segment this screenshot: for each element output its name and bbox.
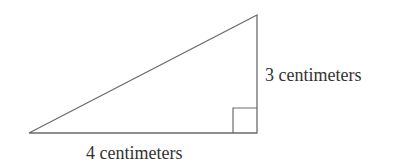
right-angle-marker xyxy=(233,108,257,133)
right-triangle-diagram: 3 centimeters 4 centimeters xyxy=(0,0,405,167)
triangle xyxy=(29,15,257,133)
base-label: 4 centimeters xyxy=(86,143,182,163)
vertical-side-label: 3 centimeters xyxy=(265,65,361,85)
